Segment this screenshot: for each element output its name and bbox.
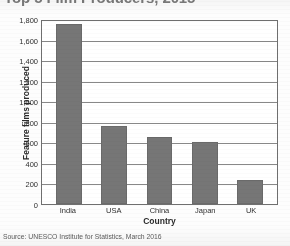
y-axis-tick-label: 1,400	[19, 57, 38, 66]
y-axis-tick-label: 1,200	[19, 77, 38, 86]
x-axis-title: Country	[41, 216, 278, 226]
bar-japan[interactable]	[192, 142, 218, 204]
chart-title: Top 5 Film Producers, 2015	[4, 0, 195, 6]
y-axis-tick-label: 800	[25, 118, 38, 127]
plot-area	[41, 20, 278, 205]
bar-slot	[46, 21, 91, 204]
bar-usa[interactable]	[101, 126, 127, 204]
bar-slot	[137, 21, 182, 204]
x-axis-tick-label: China	[137, 206, 183, 215]
y-axis-tick-label: 200	[25, 180, 38, 189]
bar-india[interactable]	[56, 24, 82, 204]
x-axis-tick-label: Japan	[182, 206, 228, 215]
y-axis-tick-label: 1,000	[19, 98, 38, 107]
y-axis-tick-label: 0	[34, 201, 38, 210]
bar-slot	[182, 21, 227, 204]
y-axis-tick-label: 1,600	[19, 36, 38, 45]
x-axis-tick-label: UK	[228, 206, 274, 215]
bar-china[interactable]	[147, 137, 173, 204]
bars-layer	[42, 21, 277, 204]
bar-uk[interactable]	[237, 180, 263, 204]
x-axis-tick-label: India	[45, 206, 91, 215]
y-axis-tick-label: 600	[25, 139, 38, 148]
source-note: Source: UNESCO Institute for Statistics,…	[3, 233, 162, 240]
y-axis-tick-label: 400	[25, 159, 38, 168]
y-axis-tick-labels: 1,8001,6001,4001,2001,0008006004002000	[14, 20, 38, 205]
bar-slot	[228, 21, 273, 204]
bar-slot	[91, 21, 136, 204]
x-axis-tick-label: USA	[91, 206, 137, 215]
y-axis-tick-label: 1,800	[19, 16, 38, 25]
chart-page: Top 5 Film Producers, 2015 Feature films…	[0, 0, 290, 246]
x-axis-tick-labels: IndiaUSAChinaJapanUK	[41, 206, 278, 215]
